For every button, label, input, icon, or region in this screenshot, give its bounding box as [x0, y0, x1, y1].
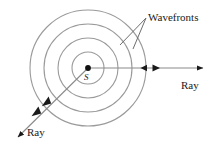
source-point-label: S [84, 73, 89, 82]
ray-right [88, 65, 203, 72]
ray-right-arrowhead-outward [153, 65, 161, 72]
ray-right-label: Ray [181, 80, 199, 91]
source-point-dot [85, 65, 91, 71]
ray-left-arrowhead-inward [42, 96, 51, 106]
ray-right-arrowhead-inward [141, 65, 148, 71]
wavefronts-label: Wavefronts [148, 12, 198, 23]
ray-left-label: Ray [27, 127, 45, 138]
wave-diagram-figure: Wavefronts Ray Ray S [0, 0, 213, 146]
ray-left-arrowhead-outward [32, 106, 42, 116]
